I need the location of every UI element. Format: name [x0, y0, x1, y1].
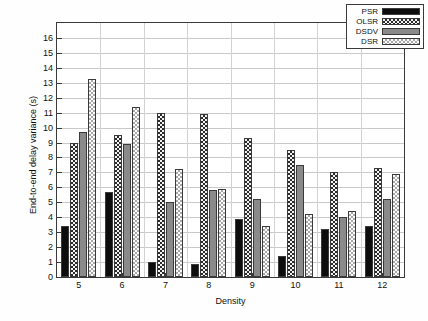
- x-tick-label: 5: [76, 280, 81, 290]
- bar-group: [321, 23, 356, 277]
- bar-olsr-11: [330, 172, 338, 277]
- bar-dsdv-11: [339, 217, 347, 277]
- bar-psr-8: [191, 264, 199, 277]
- x-tick-label: 11: [334, 280, 343, 290]
- bar-psr-6: [105, 192, 113, 277]
- x-gridline: [187, 23, 188, 277]
- legend-item-psr: PSR: [350, 7, 420, 16]
- y-tick-label: 0: [48, 273, 53, 282]
- bar-olsr-9: [244, 138, 252, 277]
- y-tick-label: 7: [48, 168, 53, 177]
- x-tick-label: 6: [120, 280, 125, 290]
- bar-dsr-8: [218, 189, 226, 277]
- y-tick-label: 6: [48, 183, 53, 192]
- bar-olsr-8: [200, 114, 208, 277]
- legend-label: OLSR: [350, 18, 378, 26]
- y-tick-label: 8: [48, 153, 53, 162]
- x-tick-label: 7: [163, 280, 168, 290]
- bar-group: [148, 23, 183, 277]
- x-tick-label: 12: [377, 280, 387, 290]
- bar-dsdv-10: [296, 165, 304, 277]
- x-axis-label: Density: [56, 296, 405, 306]
- bar-olsr-10: [287, 150, 295, 277]
- y-tick-label: 13: [43, 78, 53, 87]
- y-tick-label: 3: [48, 228, 53, 237]
- y-tick-label: 2: [48, 243, 53, 252]
- bar-dsdv-6: [123, 144, 131, 277]
- y-tick-label: 15: [43, 48, 53, 57]
- bar-psr-10: [278, 256, 286, 277]
- legend-label: PSR: [350, 8, 378, 16]
- x-gridline: [361, 23, 362, 277]
- bar-dsr-7: [175, 169, 183, 277]
- legend-label: DSDV: [350, 28, 378, 36]
- bar-psr-5: [61, 226, 69, 277]
- bar-dsr-9: [262, 226, 270, 277]
- legend-item-dsdv: DSDV: [350, 27, 420, 36]
- legend-label: DSR: [350, 38, 378, 46]
- chart-legend: PSROLSRDSDVDSR: [346, 4, 424, 49]
- bar-group: [365, 23, 400, 277]
- bar-dsdv-7: [166, 202, 174, 277]
- legend-item-olsr: OLSR: [350, 17, 420, 26]
- legend-swatch: [382, 8, 420, 15]
- legend-swatch: [382, 38, 420, 45]
- x-gridline: [100, 23, 101, 277]
- bar-dsr-11: [348, 211, 356, 277]
- bar-group: [61, 23, 96, 277]
- y-tick-label: 16: [43, 33, 53, 42]
- bar-psr-7: [148, 262, 156, 277]
- bar-dsdv-12: [383, 199, 391, 277]
- bar-psr-12: [365, 226, 373, 277]
- bar-dsdv-5: [79, 132, 87, 277]
- plot-area: 01234567891011121314151656789101112: [56, 22, 405, 278]
- legend-item-dsr: DSR: [350, 37, 420, 46]
- x-tick-label: 10: [291, 280, 301, 290]
- legend-swatch: [382, 18, 420, 25]
- y-tick-label: 5: [48, 198, 53, 207]
- x-tick-label: 9: [250, 280, 255, 290]
- chart-figure: 01234567891011121314151656789101112 End-…: [0, 0, 428, 321]
- x-gridline: [144, 23, 145, 277]
- legend-swatch: [382, 28, 420, 35]
- bar-psr-11: [321, 229, 329, 277]
- y-tick-label: 11: [44, 108, 53, 117]
- y-tick-label: 4: [48, 213, 53, 222]
- bar-group: [278, 23, 313, 277]
- bar-olsr-7: [157, 113, 165, 277]
- y-tick-mark: [57, 277, 62, 278]
- bar-group: [191, 23, 226, 277]
- bar-olsr-6: [114, 135, 122, 277]
- bar-dsr-5: [88, 79, 96, 277]
- y-tick-label: 12: [43, 93, 53, 102]
- bar-psr-9: [235, 219, 243, 277]
- bar-olsr-5: [70, 143, 78, 277]
- y-tick-label: 10: [43, 123, 53, 132]
- y-axis-label: End-to-end delay variance (s): [28, 70, 38, 240]
- bar-dsdv-8: [209, 190, 217, 277]
- x-gridline: [317, 23, 318, 277]
- x-gridline: [231, 23, 232, 277]
- bar-group: [235, 23, 270, 277]
- bar-dsr-10: [305, 214, 313, 277]
- y-tick-label: 9: [48, 138, 53, 147]
- bar-dsr-6: [132, 107, 140, 277]
- y-tick-label: 1: [48, 258, 53, 267]
- y-tick-label: 14: [43, 63, 53, 72]
- bar-group: [105, 23, 140, 277]
- bar-dsdv-9: [253, 199, 261, 277]
- bar-olsr-12: [374, 168, 382, 277]
- bar-dsr-12: [392, 174, 400, 277]
- x-tick-label: 8: [206, 280, 211, 290]
- x-gridline: [274, 23, 275, 277]
